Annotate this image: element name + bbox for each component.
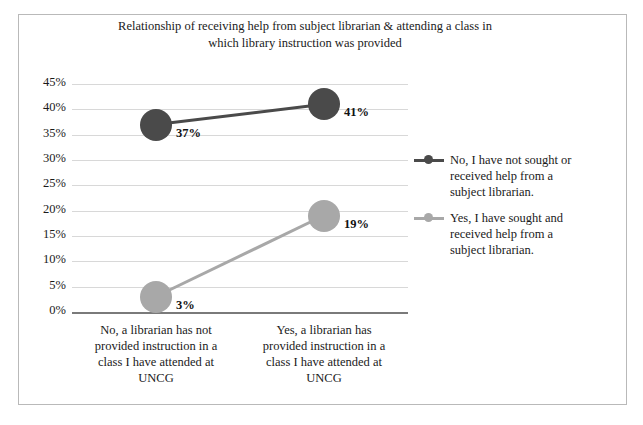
legend-label-0: No, I have not sought or received help f… [450,152,614,200]
x-axis-category-line: UNCG [72,370,240,386]
gridline [72,160,408,161]
data-point-label: 19% [344,217,369,232]
gridline [72,84,408,85]
gridline [72,211,408,212]
y-axis-tick-label: 20% [20,202,66,217]
gridline [72,287,408,288]
data-point-label: 37% [176,126,201,141]
chart-legend: No, I have not sought or received help f… [414,152,614,268]
gridline [72,135,408,136]
y-axis-tick-label: 0% [20,303,66,318]
legend-dot-icon-1 [424,213,433,222]
legend-label-1: Yes, I have sought and received help fro… [450,210,614,258]
x-axis-category-line: Yes, a librarian has [240,322,408,338]
y-axis-tick-label: 45% [20,75,66,90]
data-point-marker[interactable] [140,109,172,141]
legend-label-1-line-3: subject librarian. [450,242,614,258]
y-axis-tick-label: 30% [20,151,66,166]
series-line-1 [155,214,324,298]
x-axis-category-label-0: No, a librarian has notprovided instruct… [72,322,240,386]
x-axis-category-line: class I have attended at [72,354,240,370]
y-axis-tick-label: 35% [20,126,66,141]
series-line-0 [156,103,324,126]
y-axis-tick-label: 10% [20,252,66,267]
x-axis-category-line: provided instruction in a [240,338,408,354]
x-axis-line [72,312,408,314]
x-axis-category-line: class I have attended at [240,354,408,370]
gridline [72,261,408,262]
legend-dot-icon-0 [424,155,433,164]
legend-label-0-line-2: received help from a [450,168,614,184]
y-axis-tick-label: 25% [20,176,66,191]
x-axis-category-line: provided instruction in a [72,338,240,354]
x-axis-category-line: No, a librarian has not [72,322,240,338]
legend-label-1-line-1: Yes, I have sought and [450,210,614,226]
x-axis-category-line: UNCG [240,370,408,386]
data-point-label: 41% [344,105,369,120]
legend-label-0-line-3: subject librarian. [450,184,614,200]
y-axis-tick-label: 40% [20,100,66,115]
x-axis-category-label-1: Yes, a librarian hasprovided instruction… [240,322,408,386]
y-axis-tick-label: 15% [20,227,66,242]
legend-item-1[interactable]: Yes, I have sought and received help fro… [414,210,614,258]
legend-label-1-line-2: received help from a [450,226,614,242]
data-point-marker[interactable] [308,88,340,120]
data-point-label: 3% [176,298,195,313]
legend-label-0-line-1: No, I have not sought or [450,152,614,168]
gridline [72,236,408,237]
gridline [72,185,408,186]
data-point-marker[interactable] [308,200,340,232]
data-point-marker[interactable] [140,281,172,313]
legend-item-0[interactable]: No, I have not sought or received help f… [414,152,614,200]
y-axis-tick-label: 5% [20,278,66,293]
